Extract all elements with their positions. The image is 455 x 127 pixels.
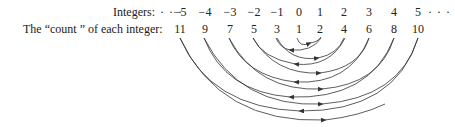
integer-counting-diagram: Integers: · · · The “count ” of each int… <box>0 0 455 127</box>
spiral-arrows <box>0 0 455 127</box>
